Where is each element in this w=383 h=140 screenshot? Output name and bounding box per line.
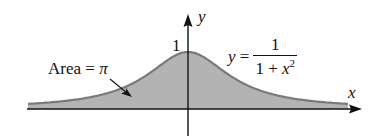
equation-equals: = [236,48,250,65]
x-axis-label: x [348,84,356,101]
y-axis-label: y [198,8,206,25]
denominator-exponent: 2 [290,57,296,69]
equation-label: y = 1 1 + x2 [228,36,295,77]
area-text: Area = [48,59,99,78]
denominator-variable: x [282,59,290,78]
pi-symbol: π [99,59,108,78]
equation-lhs: y [228,48,236,65]
peak-tick-label: 1 [172,37,181,54]
equation-denominator: 1 + x2 [255,56,295,77]
equation-fraction: 1 1 + x2 [255,36,295,77]
equation-numerator: 1 [253,36,297,56]
area-annotation: Area = π [48,60,108,77]
denominator-prefix: 1 + [255,59,282,78]
